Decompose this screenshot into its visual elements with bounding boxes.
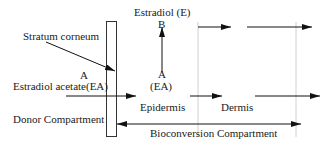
substrate-a-label-center: A bbox=[158, 68, 166, 80]
epidermis-label: Epidermis bbox=[140, 101, 185, 113]
stratum-corneum-label: Stratum corneum bbox=[23, 30, 99, 42]
estradiol-acetate-label: Estradiol acetate(EA) bbox=[13, 80, 108, 92]
stratum-corneum-pointer-arrow bbox=[46, 42, 115, 71]
estradiol-label: Estradiol (E) bbox=[134, 6, 191, 18]
donor-compartment-label: Donor Compartment bbox=[13, 113, 104, 125]
dermis-label: Dermis bbox=[221, 101, 253, 113]
ea-center-label: (EA) bbox=[150, 80, 172, 92]
product-b-label: B bbox=[158, 18, 165, 30]
bioconversion-compartment-label: Bioconversion Compartment bbox=[150, 127, 277, 139]
stratum-corneum-membrane bbox=[107, 22, 117, 137]
